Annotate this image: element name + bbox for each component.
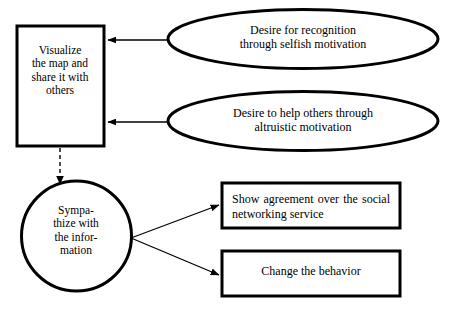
node-ellipse-altruistic <box>168 92 438 151</box>
node-visualize-box <box>17 26 104 146</box>
edge-sympathize-to-behavior <box>131 238 219 275</box>
edge-sympathize-to-agreement <box>131 205 219 238</box>
node-box-behavior <box>222 251 400 296</box>
diagram-svg <box>0 0 451 314</box>
diagram-canvas: Visualize the map and share it with othe… <box>0 0 451 314</box>
node-ellipse-recognition <box>168 10 438 69</box>
node-sympathize-circle <box>22 181 132 291</box>
node-box-agreement <box>222 183 400 228</box>
